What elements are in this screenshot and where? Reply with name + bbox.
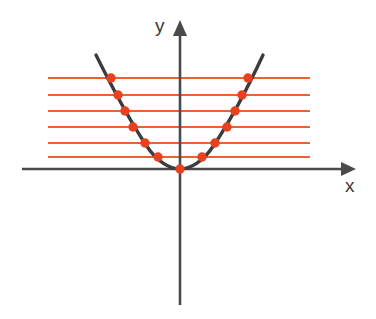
intersection-dot	[197, 152, 206, 161]
intersection-dot	[230, 106, 239, 115]
intersection-dot	[153, 152, 162, 161]
intersection-dot	[237, 90, 246, 99]
intersection-dot	[222, 122, 231, 131]
intersection-dot	[128, 122, 137, 131]
parabola-level-lines-figure: y x	[0, 0, 376, 319]
intersection-dot	[210, 138, 219, 147]
x-axis-label: x	[345, 176, 355, 195]
plot-canvas	[0, 0, 376, 319]
y-axis	[173, 20, 187, 305]
x-axis-arrow-icon	[341, 162, 356, 176]
intersection-dot	[243, 73, 252, 82]
y-axis-label: y	[155, 16, 165, 35]
intersection-dot	[113, 90, 122, 99]
intersection-dot	[120, 106, 129, 115]
intersection-dot	[140, 138, 149, 147]
intersection-dot	[106, 73, 115, 82]
y-axis-arrow-icon	[173, 20, 187, 36]
intersection-dot	[175, 164, 184, 173]
